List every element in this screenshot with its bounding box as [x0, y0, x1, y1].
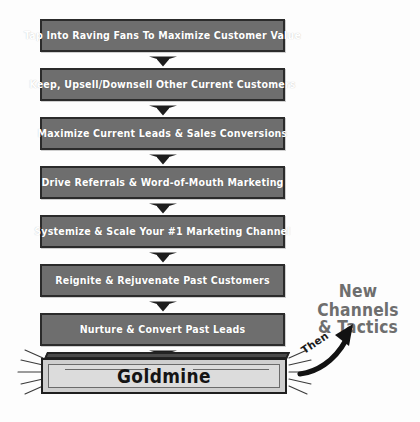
- goldmine-label: Goldmine: [117, 365, 211, 387]
- flow-step-box-4[interactable]: Drive Referrals & Word-of-Mouth Marketin…: [40, 166, 285, 199]
- flow-step-label-1: Tap Into Raving Fans To Maximize Custome…: [24, 30, 301, 41]
- goldmine-tick-bottom-right: [195, 387, 269, 388]
- down-arrow-icon-5: [149, 250, 177, 263]
- flow-step-label-4: Drive Referrals & Word-of-Mouth Marketin…: [41, 177, 283, 188]
- diagram-canvas: Tap Into Raving Fans To Maximize Custome…: [0, 0, 420, 422]
- down-arrow-icon-2: [149, 103, 177, 116]
- flow-step-box-7[interactable]: Nurture & Convert Past Leads: [40, 313, 285, 346]
- down-arrow-icon-4: [149, 201, 177, 214]
- flow-step-label-2: Keep, Upsell/Downsell Other Current Cust…: [29, 79, 295, 90]
- flow-step-label-3: Maximize Current Leads & Sales Conversio…: [38, 128, 288, 139]
- flow-step-label-7: Nurture & Convert Past Leads: [80, 324, 246, 335]
- flow-step-label-6: Reignite & Rejuvenate Past Customers: [55, 275, 270, 286]
- sparkle-rays-icon-left: [14, 348, 44, 396]
- goldmine-tick-bottom-left: [71, 387, 149, 388]
- goldmine-body: Goldmine: [41, 358, 287, 394]
- down-arrow-icon-3: [149, 152, 177, 165]
- annotation-line-1: New Channels: [296, 282, 420, 321]
- flow-step-label-5: Systemize & Scale Your #1 Marketing Chan…: [34, 226, 290, 237]
- down-arrow-icon-1: [149, 54, 177, 67]
- down-arrow-icon-6: [149, 299, 177, 312]
- flow-step-box-5[interactable]: Systemize & Scale Your #1 Marketing Chan…: [40, 215, 285, 248]
- flow-step-box-2[interactable]: Keep, Upsell/Downsell Other Current Cust…: [40, 68, 285, 101]
- flow-step-box-3[interactable]: Maximize Current Leads & Sales Conversio…: [40, 117, 285, 150]
- goldmine-result-block[interactable]: Goldmine: [41, 352, 287, 394]
- flow-step-box-6[interactable]: Reignite & Rejuvenate Past Customers: [40, 264, 285, 297]
- flow-step-box-1[interactable]: Tap Into Raving Fans To Maximize Custome…: [40, 19, 285, 52]
